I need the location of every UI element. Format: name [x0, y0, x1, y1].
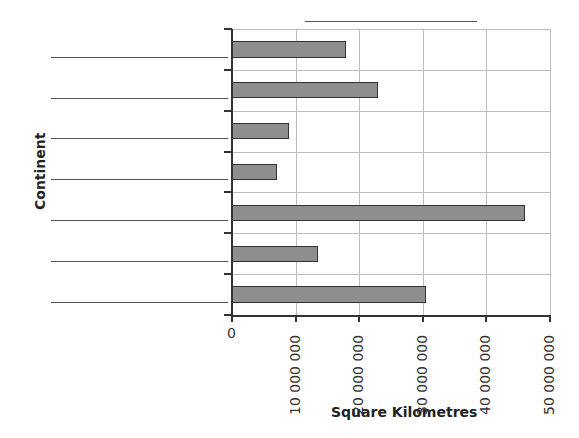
- gridline-horizontal: [232, 70, 550, 71]
- y-axis-label: Continent: [32, 133, 48, 210]
- bar-3: [232, 123, 289, 139]
- x-tick-label: 50 000 000: [541, 335, 557, 415]
- category-label-blank-line: [51, 138, 228, 139]
- x-tick-label: 10 000 000: [287, 335, 303, 415]
- category-label-blank-line: [51, 179, 228, 180]
- category-label-blank-line: [51, 261, 228, 262]
- bar-chart: 010 000 00020 000 00030 000 00040 000 00…: [0, 0, 579, 438]
- bar-2: [232, 82, 378, 98]
- x-tick-label: 30 000 000: [414, 335, 430, 415]
- gridline-vertical: [296, 29, 297, 315]
- x-tick-label: 20 000 000: [350, 335, 366, 415]
- x-axis: [231, 315, 551, 317]
- x-axis-label: Square Kilometres: [331, 404, 477, 420]
- gridline-horizontal: [232, 152, 550, 153]
- gridline-vertical: [550, 29, 551, 315]
- gridline-horizontal: [232, 233, 550, 234]
- gridline-vertical: [359, 29, 360, 315]
- y-axis: [231, 29, 233, 317]
- bar-6: [232, 246, 318, 262]
- category-label-blank-line: [51, 98, 228, 99]
- title-blank-line: [305, 21, 477, 22]
- category-label-blank-line: [51, 57, 228, 58]
- gridline-horizontal: [232, 29, 550, 30]
- bar-4: [232, 164, 277, 180]
- category-label-blank-line: [51, 220, 228, 221]
- gridline-vertical: [423, 29, 424, 315]
- bar-1: [232, 41, 346, 57]
- gridline-vertical: [486, 29, 487, 315]
- x-tick-label: 40 000 000: [477, 335, 493, 415]
- bar-7: [232, 286, 426, 302]
- category-label-blank-line: [51, 302, 228, 303]
- bar-5: [232, 205, 525, 221]
- gridline-horizontal: [232, 274, 550, 275]
- gridline-horizontal: [232, 111, 550, 112]
- x-tick-label: 0: [227, 325, 236, 341]
- gridline-horizontal: [232, 192, 550, 193]
